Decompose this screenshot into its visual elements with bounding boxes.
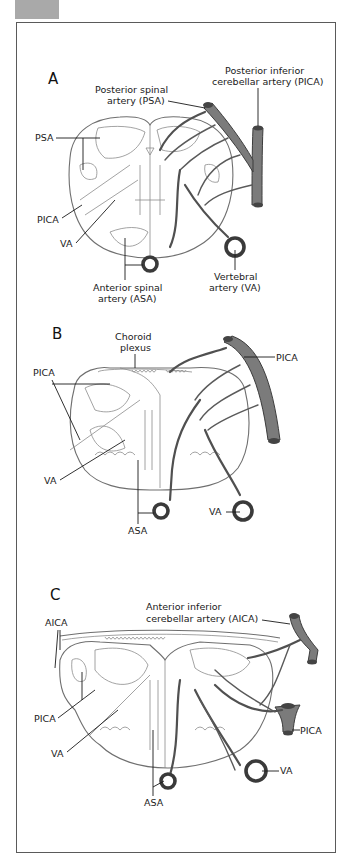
pica-vessel-end-c <box>281 703 295 709</box>
label-va-2-a: artery (VA) <box>209 282 261 293</box>
panel-letter-c: C <box>50 586 60 604</box>
midline-b <box>120 368 160 488</box>
nucleus-a3 <box>80 163 97 179</box>
label-va-right-b: VA <box>209 506 222 517</box>
asa-ring-b <box>154 504 168 518</box>
panel-a: A Posterior inferior cerebellar artery <box>35 65 323 304</box>
leader-pica-left-b <box>52 380 110 440</box>
branch-c1 <box>248 640 300 658</box>
medulla-blood-supply-diagram: A Posterior inferior cerebellar artery <box>0 0 350 868</box>
label-pica-left-c: PICA <box>34 713 56 724</box>
pica-trunk-a <box>252 128 263 205</box>
leader-va-left-c <box>67 710 118 752</box>
nucleus-a1 <box>96 126 145 158</box>
branch-a7 <box>185 185 228 237</box>
psa-vessel-end-a <box>203 102 213 108</box>
branch-b2 <box>195 365 240 400</box>
label-choroid-1: Choroid <box>115 331 152 342</box>
label-asa-b: ASA <box>128 525 148 536</box>
surface-line-c2 <box>62 634 278 642</box>
label-asa-c: ASA <box>144 797 164 808</box>
leader-pica-left-a <box>62 205 82 218</box>
label-pica-title-1: Posterior inferior <box>225 65 304 76</box>
pica-vessel-c <box>275 705 300 732</box>
leader-aica-c <box>262 620 290 624</box>
tract-b <box>70 400 140 450</box>
branch-c5 <box>170 680 180 775</box>
label-va-1-a: Vertebral <box>214 271 257 282</box>
panel-c: C Anterior inferior cerebellar artery (A… <box>34 586 322 808</box>
label-pica-title-2: cerebellar artery (PICA) <box>212 76 323 87</box>
branch-a2 <box>165 125 215 160</box>
choroid-fringe-c <box>105 637 165 639</box>
panel-b: B Choroid plexus PICA PICA VA ASA <box>33 325 298 536</box>
pyramid-b <box>145 410 152 470</box>
aica-vessel-end-c <box>289 613 299 619</box>
label-choroid-2: plexus <box>120 342 151 353</box>
label-aica-left-c: AICA <box>45 617 68 628</box>
branch-b5 <box>170 400 200 500</box>
pica-vessel-end-b2 <box>268 438 280 444</box>
nucleus-c1 <box>72 659 87 682</box>
label-pica-left-a: PICA <box>37 214 59 225</box>
aica-vessel-end-c2 <box>307 660 317 665</box>
label-pica-right-b: PICA <box>276 352 298 363</box>
label-pica-left-b: PICA <box>33 367 55 378</box>
panel-letter-b: B <box>52 325 62 343</box>
pyramid-c <box>150 680 158 750</box>
label-pica-right-c: PICA <box>300 725 322 736</box>
nucleus-c3 <box>190 648 250 676</box>
pyramid-a <box>110 228 148 247</box>
label-aica-title-2: cerebellar artery (AICA) <box>146 613 258 624</box>
branch-a3 <box>180 138 228 170</box>
aica-vessel-c <box>290 615 318 662</box>
label-va-left-c: VA <box>51 748 64 759</box>
pica-trunk-end-a <box>253 126 263 131</box>
leader-aica-left-c <box>55 630 60 668</box>
pica-trunk-end-a2 <box>253 203 263 208</box>
olive-c <box>100 727 225 730</box>
label-asa-1-a: Anterior spinal <box>93 282 162 293</box>
psa-vessel-a <box>204 103 253 172</box>
pica-vessel-end-c2 <box>283 731 293 736</box>
label-va-left-b: VA <box>44 475 57 486</box>
label-psa-title-1: Posterior spinal <box>95 84 168 95</box>
label-aica-title-1: Anterior inferior <box>146 601 222 612</box>
branch-a5 <box>205 185 252 205</box>
branch-b4 <box>208 405 258 430</box>
tract-a <box>80 165 138 215</box>
leader-va-left-a <box>76 200 115 243</box>
leader-va-left-b <box>60 440 125 480</box>
nucleus-b1 <box>85 384 130 412</box>
branch-b3 <box>200 385 250 420</box>
branch-a6 <box>170 170 180 247</box>
leader-asa-a <box>125 238 143 280</box>
label-asa-2-a: artery (ASA) <box>98 293 156 304</box>
pica-vessel-end-b <box>223 336 233 342</box>
nucleus-b2 <box>90 426 125 451</box>
leader-psa-a <box>168 101 205 108</box>
label-psa-left-a: PSA <box>35 132 54 143</box>
nucleus-c2 <box>95 648 148 684</box>
pica-vessel-b <box>224 336 280 440</box>
asa-ring-a <box>143 257 157 271</box>
va-ring-b <box>234 502 252 520</box>
panel-letter-a: A <box>48 70 59 88</box>
choroid-plexus-fringe <box>132 370 186 372</box>
label-va-right-c: VA <box>280 765 293 776</box>
label-va-left-a: VA <box>60 238 73 249</box>
label-psa-title-2: artery (PSA) <box>107 95 165 106</box>
